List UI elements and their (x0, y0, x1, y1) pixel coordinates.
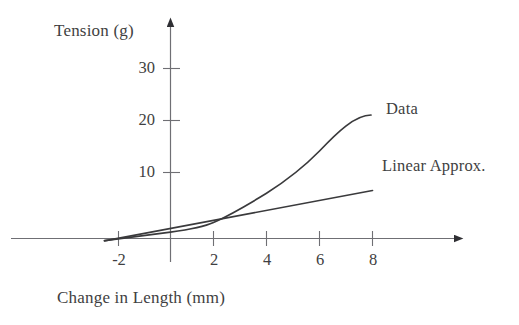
x-tick-label-2: 2 (198, 252, 230, 269)
x-tick-label-8: 8 (357, 252, 389, 269)
y-axis-title: Tension (g) (54, 22, 134, 39)
linear-approx-line (105, 191, 373, 241)
series-label-data: Data (386, 101, 418, 118)
y-tick-label-20: 20 (115, 112, 155, 129)
x-tick-label-4: 4 (251, 252, 283, 269)
tension-vs-length-figure: Tension (g) Change in Length (mm) 30 20 … (0, 0, 519, 325)
x-axis-title: Change in Length (mm) (57, 289, 225, 306)
x-tick-label-neg2: -2 (103, 252, 135, 269)
y-tick-label-10: 10 (115, 164, 155, 181)
x-tick-label-6: 6 (304, 252, 336, 269)
y-tick-label-30: 30 (115, 60, 155, 77)
y-tick-marks (163, 69, 180, 173)
series-label-linear-approx: Linear Approx. (382, 158, 486, 175)
